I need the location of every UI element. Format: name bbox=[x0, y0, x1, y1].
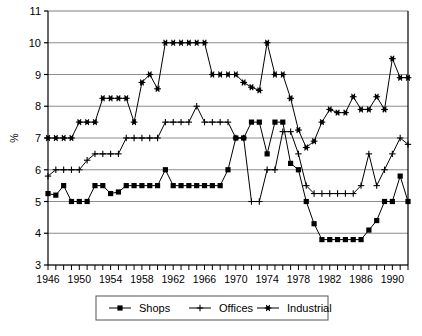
data-point-shops bbox=[194, 183, 199, 188]
y-tick-label: 4 bbox=[35, 227, 41, 239]
data-point-shops bbox=[85, 199, 90, 204]
y-tick-label: 8 bbox=[35, 100, 41, 112]
data-point-shops bbox=[249, 120, 254, 125]
x-tick-label: 1978 bbox=[287, 273, 311, 285]
data-point-shops bbox=[319, 237, 324, 242]
data-point-shops bbox=[100, 183, 105, 188]
x-tick-label: 1950 bbox=[68, 273, 92, 285]
data-point-shops bbox=[265, 151, 270, 156]
data-point-shops bbox=[272, 120, 277, 125]
data-point-shops bbox=[61, 183, 66, 188]
x-tick-label: 1962 bbox=[162, 273, 186, 285]
data-point-shops bbox=[45, 191, 50, 196]
data-point-shops bbox=[69, 199, 74, 204]
y-tick-label: 5 bbox=[35, 196, 41, 208]
data-point-shops bbox=[53, 193, 58, 198]
data-point-shops bbox=[218, 183, 223, 188]
data-point-shops bbox=[116, 189, 121, 194]
data-point-shops bbox=[163, 167, 168, 172]
data-point-shops bbox=[178, 183, 183, 188]
x-tick-label: 1982 bbox=[318, 273, 342, 285]
data-point-shops bbox=[202, 183, 207, 188]
data-point-shops bbox=[147, 183, 152, 188]
legend-marker-shops bbox=[117, 305, 122, 310]
figure-caption bbox=[0, 326, 422, 336]
data-point-shops bbox=[186, 183, 191, 188]
y-tick-label: 3 bbox=[35, 259, 41, 271]
data-point-shops bbox=[139, 183, 144, 188]
data-point-shops bbox=[374, 218, 379, 223]
y-tick-label: 11 bbox=[30, 5, 41, 17]
y-tick-label: 7 bbox=[35, 132, 41, 144]
legend-label-offices: Offices bbox=[219, 302, 254, 314]
data-point-shops bbox=[92, 183, 97, 188]
data-point-shops bbox=[131, 183, 136, 188]
y-axis-title: % bbox=[8, 133, 20, 142]
data-point-shops bbox=[171, 183, 176, 188]
data-point-shops bbox=[335, 237, 340, 242]
data-point-shops bbox=[311, 221, 316, 226]
data-point-shops bbox=[405, 199, 410, 204]
data-point-shops bbox=[358, 237, 363, 242]
x-tick-label: 1986 bbox=[349, 273, 373, 285]
data-point-shops bbox=[351, 237, 356, 242]
data-point-shops bbox=[225, 167, 230, 172]
chart-figure: 3456789101119461950195419581962196619701… bbox=[0, 0, 422, 336]
data-point-shops bbox=[77, 199, 82, 204]
x-tick-label: 1958 bbox=[130, 273, 154, 285]
x-tick-label: 1966 bbox=[193, 273, 217, 285]
data-point-shops bbox=[108, 191, 113, 196]
data-point-shops bbox=[382, 199, 387, 204]
x-tick-label: 1990 bbox=[381, 273, 405, 285]
legend-label-shops: Shops bbox=[139, 302, 171, 314]
data-point-shops bbox=[366, 227, 371, 232]
x-tick-label: 1974 bbox=[255, 273, 279, 285]
legend-label-industrial: Industrial bbox=[287, 302, 332, 314]
data-point-shops bbox=[398, 174, 403, 179]
data-point-shops bbox=[327, 237, 332, 242]
data-point-shops bbox=[280, 120, 285, 125]
data-point-shops bbox=[343, 237, 348, 242]
y-tick-label: 10 bbox=[29, 37, 41, 49]
data-point-shops bbox=[288, 161, 293, 166]
y-tick-label: 9 bbox=[35, 69, 41, 81]
x-tick-label: 1946 bbox=[36, 273, 60, 285]
data-point-shops bbox=[124, 183, 129, 188]
data-point-shops bbox=[390, 199, 395, 204]
line-chart: 3456789101119461950195419581962196619701… bbox=[0, 0, 422, 336]
y-tick-label: 6 bbox=[35, 164, 41, 176]
data-point-shops bbox=[296, 167, 301, 172]
data-point-shops bbox=[155, 183, 160, 188]
x-tick-label: 1970 bbox=[224, 273, 248, 285]
data-point-shops bbox=[304, 199, 309, 204]
data-point-shops bbox=[257, 120, 262, 125]
x-tick-label: 1954 bbox=[99, 273, 123, 285]
data-point-shops bbox=[210, 183, 215, 188]
